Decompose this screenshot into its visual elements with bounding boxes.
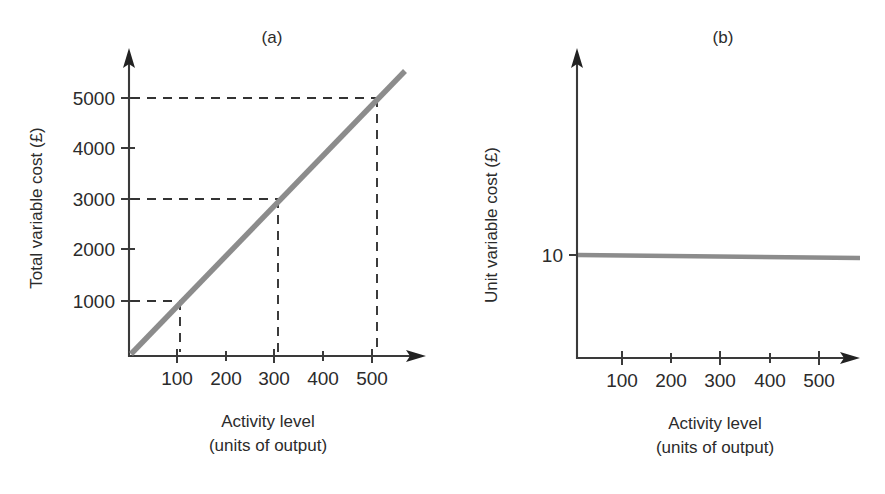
panel-b-x-axis-title-line1: Activity level <box>668 414 762 433</box>
panel-a-xtick-label-300: 300 <box>258 368 290 389</box>
panel-a-x-axis-title-line1: Activity level <box>221 412 315 431</box>
panel-b-y-axis-title: Unit variable cost (£) <box>482 147 501 303</box>
panel-b-xtick-label-500: 500 <box>803 370 835 391</box>
panel-a-caption: (a) <box>262 28 283 47</box>
panel-b-xtick-label-200: 200 <box>655 370 687 391</box>
figure-root: (a) 5000 4000 3000 2000 1000 <box>0 0 885 494</box>
chart-figure: (a) 5000 4000 3000 2000 1000 <box>0 0 885 494</box>
panel-a-ytick-label-5000: 5000 <box>73 88 115 109</box>
panel-b-xtick-label-400: 400 <box>754 370 786 391</box>
panel-b-data-line <box>578 255 860 258</box>
panel-a-ytick-label-2000: 2000 <box>73 239 115 260</box>
panel-a-ytick-label-3000: 3000 <box>73 189 115 210</box>
panel-a-xtick-label-100: 100 <box>161 368 193 389</box>
panel-b-xtick-label-300: 300 <box>704 370 736 391</box>
panel-a-xtick-label-200: 200 <box>210 368 242 389</box>
panel-a-x-axis-title-line2: (units of output) <box>209 436 327 455</box>
panel-a: (a) 5000 4000 3000 2000 1000 <box>27 28 426 455</box>
panel-a-xtick-label-400: 400 <box>307 368 339 389</box>
panel-b-xtick-label-100: 100 <box>606 370 638 391</box>
panel-a-ytick-label-1000: 1000 <box>73 291 115 312</box>
panel-b-ytick-label-10: 10 <box>542 245 563 266</box>
panel-b-x-axis-title-line2: (units of output) <box>656 438 774 457</box>
panel-a-y-axis-title: Total variable cost (£) <box>27 127 46 289</box>
panel-a-ytick-label-4000: 4000 <box>73 138 115 159</box>
panel-a-xtick-label-500: 500 <box>356 368 388 389</box>
panel-b-caption: (b) <box>713 28 734 47</box>
panel-a-data-line <box>131 71 405 354</box>
panel-b: (b) 10 100 200 300 400 500 <box>482 28 860 457</box>
